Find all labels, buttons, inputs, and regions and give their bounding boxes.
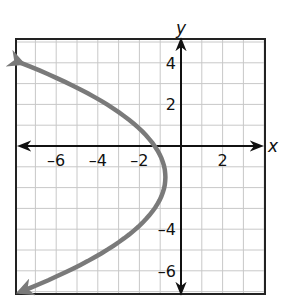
graph: x y –6–4–22 42–4–6 xyxy=(0,0,285,308)
parabola-curve xyxy=(21,63,166,292)
y-tick-label: –6 xyxy=(158,262,176,281)
x-tick-label: 2 xyxy=(218,151,228,170)
y-tick-label: –4 xyxy=(158,220,176,239)
x-tick-label: –2 xyxy=(130,151,148,170)
x-tick-label: –4 xyxy=(89,151,107,170)
x-tick-label: –6 xyxy=(47,151,65,170)
y-tick-label: 2 xyxy=(166,95,176,114)
x-axis-label: x xyxy=(267,136,279,156)
y-tick-label: 4 xyxy=(166,54,176,73)
y-axis-label: y xyxy=(175,18,187,38)
